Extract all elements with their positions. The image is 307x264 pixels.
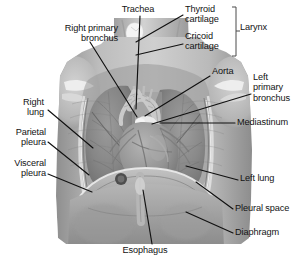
label-trachea: Trachea	[110, 4, 166, 14]
label-right-lung: Right lung	[2, 97, 44, 118]
label-pleural-space: Pleural space	[235, 203, 307, 213]
label-parietal-pleura: Parietal pleura	[2, 127, 46, 148]
label-diaphragm: Diaphragm	[235, 227, 301, 237]
thyroid-cartilage-shape	[126, 23, 143, 39]
label-cricoid-cartilage: Cricoid cartilage	[185, 31, 243, 52]
label-thyroid-cartilage: Thyroid cartilage	[185, 4, 243, 25]
anatomy-figure: TracheaRight primary bronchusThyroid car…	[0, 0, 307, 264]
label-aorta: Aorta	[212, 66, 252, 76]
label-left-lung: Left lung	[240, 173, 302, 183]
label-mediastinum: Mediastinum	[237, 117, 307, 127]
label-right-primary-bronchus: Right primary bronchus	[8, 23, 118, 44]
label-esophagus: Esophagus	[112, 245, 178, 255]
label-visceral-pleura: Visceral pleura	[2, 158, 46, 179]
label-larynx: Larynx	[240, 22, 284, 32]
label-left-primary-bronchus: Left primary bronchus	[253, 72, 305, 103]
